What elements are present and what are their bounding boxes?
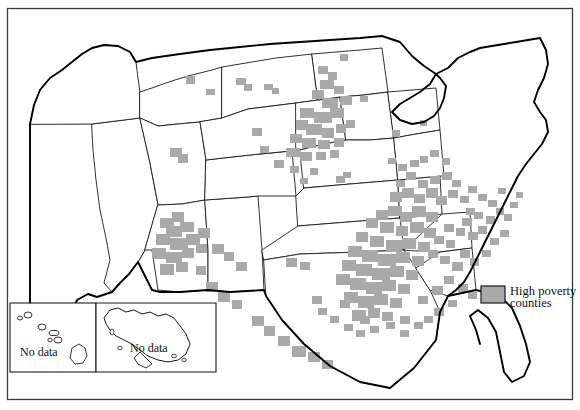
poverty-cell [374, 294, 388, 305]
poverty-cell [290, 166, 299, 173]
poverty-cell [300, 108, 314, 118]
poverty-cell [320, 80, 334, 89]
poverty-cell [316, 152, 326, 160]
poverty-cell [322, 128, 334, 138]
poverty-cell [436, 196, 447, 205]
poverty-cell [498, 188, 506, 194]
poverty-cell [500, 230, 509, 237]
poverty-cell [388, 206, 402, 216]
poverty-cell [196, 244, 207, 253]
poverty-cell [322, 98, 338, 108]
poverty-cell [252, 128, 262, 136]
poverty-cell [400, 330, 409, 337]
poverty-cell [343, 172, 351, 178]
poverty-cell [446, 240, 455, 248]
poverty-cell [406, 270, 418, 280]
poverty-cell [468, 186, 477, 193]
hawaii-island-lanai [48, 338, 52, 342]
poverty-cell [360, 96, 368, 102]
poverty-cell [516, 192, 523, 198]
poverty-cell [292, 346, 306, 357]
poverty-cell [400, 316, 410, 324]
poverty-cell [350, 278, 366, 290]
poverty-cell [272, 88, 279, 94]
poverty-cell [356, 232, 368, 242]
poverty-cell [414, 322, 423, 329]
poverty-cell [448, 190, 458, 198]
poverty-cell [236, 78, 246, 85]
poverty-cell [340, 54, 348, 61]
poverty-cell [430, 150, 439, 157]
poverty-cell [400, 212, 412, 222]
hawaii-inset: No data [10, 303, 96, 372]
poverty-cell [406, 172, 416, 180]
poverty-cell [370, 326, 379, 333]
poverty-cell [244, 84, 252, 91]
poverty-cell [396, 226, 408, 236]
poverty-cell [460, 250, 470, 258]
poverty-cell [466, 208, 475, 215]
poverty-cell [482, 250, 491, 257]
poverty-cell [328, 72, 337, 80]
poverty-cell [358, 296, 374, 308]
poverty-cell [218, 292, 230, 302]
poverty-cell [456, 228, 465, 236]
legend-label-line2: counties [510, 296, 552, 310]
poverty-cell [264, 326, 275, 336]
poverty-cell [398, 284, 410, 294]
poverty-cell [310, 168, 318, 175]
poverty-cell [306, 124, 322, 135]
poverty-cell [330, 316, 339, 323]
poverty-cell [478, 226, 487, 234]
poverty-cell [460, 196, 469, 203]
poverty-cell [160, 264, 174, 275]
poverty-cell [346, 120, 355, 128]
poverty-cell [212, 244, 224, 254]
poverty-cell [264, 84, 273, 90]
poverty-cell [274, 160, 284, 168]
poverty-cell [156, 234, 170, 245]
poverty-cell [352, 310, 366, 321]
poverty-cell [236, 262, 247, 271]
poverty-cell [380, 222, 394, 233]
poverty-cell [366, 218, 378, 228]
legend-swatch [481, 286, 505, 303]
hawaii-island-maui [54, 337, 62, 343]
poverty-cell [442, 158, 450, 165]
poverty-cell [430, 176, 440, 184]
poverty-cell [330, 108, 344, 118]
poverty-cell [410, 222, 424, 233]
poverty-cell [290, 134, 302, 143]
poverty-cell [318, 140, 330, 149]
poverty-cell [468, 232, 478, 240]
poverty-cell [396, 180, 405, 187]
poverty-cell [452, 180, 461, 187]
poverty-cell [444, 276, 454, 284]
poverty-cell [252, 316, 264, 326]
poverty-cell [396, 252, 410, 263]
poverty-cell [166, 252, 182, 263]
poverty-cell [444, 224, 454, 232]
poverty-cell [336, 124, 346, 133]
poverty-cell [368, 308, 380, 318]
poverty-map-figure: No data No data High poverty counties [0, 0, 580, 410]
poverty-cell [424, 316, 433, 323]
alaska-inset: No data [96, 303, 216, 372]
poverty-cell [356, 264, 372, 276]
poverty-cell [172, 212, 184, 222]
poverty-cell [348, 246, 362, 257]
poverty-cell [302, 138, 316, 148]
poverty-cell [186, 76, 195, 84]
poverty-cell [402, 238, 416, 249]
poverty-cell [382, 280, 396, 291]
poverty-cell [462, 218, 472, 226]
poverty-cell [198, 228, 210, 238]
poverty-cell [336, 274, 350, 285]
poverty-cell [452, 262, 463, 271]
hawaii-island-kauai [24, 312, 32, 318]
alaska-island [182, 358, 186, 362]
poverty-cell [224, 252, 234, 261]
poverty-cell [334, 86, 344, 94]
poverty-cell [490, 238, 499, 245]
poverty-cell [504, 214, 512, 221]
